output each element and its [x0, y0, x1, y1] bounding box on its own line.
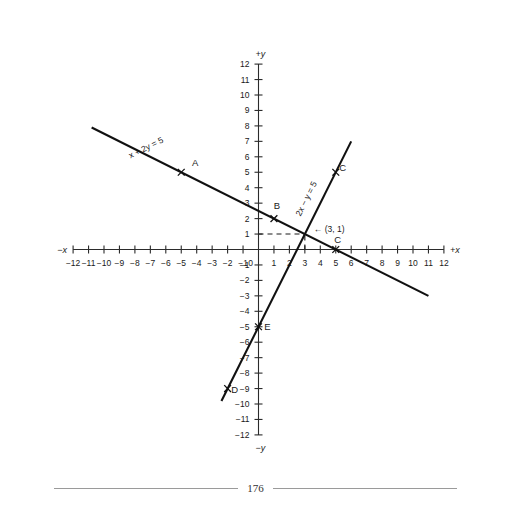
- x-axis-positive-label: +x: [450, 245, 460, 255]
- x-axis-tick-label: 5: [333, 258, 338, 268]
- y-axis-tick-label: −4: [240, 306, 250, 316]
- x-axis-tick-label: −7: [145, 258, 155, 268]
- y-axis-tick-label: 1: [245, 229, 250, 239]
- x-axis-tick-label: −12: [66, 258, 81, 268]
- x-axis-tick-label: −11: [82, 258, 96, 268]
- y-axis-tick-label: −8: [240, 368, 250, 378]
- x-axis-tick-label: 12: [439, 258, 449, 268]
- x-axis-tick-label: 4: [318, 258, 323, 268]
- x-axis-tick-label: −6: [161, 258, 171, 268]
- x-axis-tick-label: −10: [97, 258, 112, 268]
- y-axis-tick-label: 8: [245, 121, 250, 131]
- x-axis-tick-label: 10: [408, 258, 418, 268]
- x-axis-tick-label: 3: [302, 258, 307, 268]
- intersection-annotation: ← (3, 1): [314, 224, 345, 234]
- x-axis-tick-label: −2: [223, 258, 233, 268]
- x-axis-tick-label: −5: [176, 258, 186, 268]
- coordinate-plane: −12−11−10−9−8−7−6−5−4−3−2−11234567891011…: [0, 0, 511, 506]
- point-label-c: C: [339, 162, 346, 173]
- x-axis-tick-label: 1: [272, 258, 277, 268]
- y-axis-tick-label: 5: [245, 167, 250, 177]
- x-axis-tick-label: −4: [192, 258, 202, 268]
- y-axis-tick-label: −3: [240, 291, 250, 301]
- y-axis-tick-label: 9: [245, 105, 250, 115]
- footer-rule-left: [54, 488, 238, 489]
- y-axis-tick-label: −10: [235, 399, 250, 409]
- y-axis-tick-label: 11: [241, 75, 250, 85]
- y-axis-tick-label: −9: [240, 384, 250, 394]
- x-axis-tick-label: 11: [424, 258, 433, 268]
- footer-page-number: 176: [247, 482, 264, 494]
- x-axis-tick-label: 9: [395, 258, 400, 268]
- y-axis-tick-label: −2: [240, 275, 250, 285]
- point-label-c: C: [334, 234, 341, 245]
- x-axis-tick-label: −3: [207, 258, 217, 268]
- x-axis-tick-label: −8: [130, 258, 140, 268]
- y-axis-tick-label: 10: [240, 90, 250, 100]
- y-axis-tick-label: −12: [235, 430, 250, 440]
- point-label-a: A: [192, 157, 199, 168]
- y-axis-tick-label: 12: [240, 59, 250, 69]
- graph-figure: −12−11−10−9−8−7−6−5−4−3−2−11234567891011…: [0, 0, 511, 506]
- y-axis-tick-label: −5: [240, 322, 250, 332]
- graph-line-2: [221, 141, 351, 401]
- x-axis-tick-label: 8: [380, 258, 385, 268]
- x-axis-negative-label: −x: [57, 245, 67, 255]
- y-axis-negative-label: −y: [256, 443, 266, 453]
- footer-rule-right: [273, 488, 457, 489]
- point-label-b: B: [274, 200, 280, 211]
- point-label-d: D: [231, 384, 238, 395]
- equation-label-line-1: x + 2y = 5: [127, 135, 165, 161]
- y-axis-tick-label: 6: [245, 152, 250, 162]
- y-axis-positive-label: +y: [256, 49, 266, 59]
- point-label-e: E: [264, 321, 270, 332]
- y-axis-tick-label: −1: [240, 260, 250, 270]
- y-axis-tick-label: 4: [245, 183, 250, 193]
- x-axis-tick-label: −9: [115, 258, 125, 268]
- y-axis-tick-label: 2: [245, 214, 250, 224]
- page-footer: 176: [0, 482, 511, 494]
- y-axis-tick-label: −11: [236, 414, 250, 424]
- y-axis-tick-label: 7: [245, 136, 250, 146]
